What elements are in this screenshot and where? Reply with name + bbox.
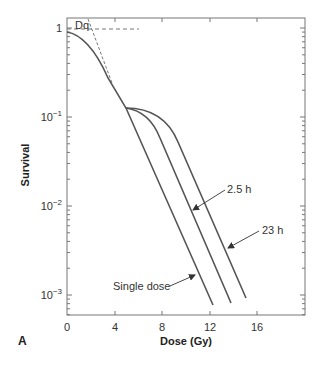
- x-axis-title: Dose (Gy): [160, 335, 212, 347]
- y-tick-base: 10: [41, 200, 53, 212]
- plot-frame: [67, 18, 305, 315]
- y-tick-exp: −1: [53, 109, 63, 118]
- panel-label: A: [18, 334, 27, 348]
- curve-single-dose: [67, 32, 213, 305]
- annotation-2-5h: 2.5 h: [227, 183, 251, 195]
- arrow-single-dose: [170, 275, 195, 286]
- x-tick-8: 8: [159, 321, 165, 333]
- curve-2-5h: [126, 108, 231, 303]
- y-tick-10-1: 10−1: [41, 109, 63, 123]
- curve-23h: [126, 108, 246, 298]
- x-tick-12: 12: [204, 321, 216, 333]
- survival-chart: 0 4 8 12 16 1 10−1 10−2 10−3 Dose (Gy) S…: [0, 0, 323, 367]
- x-tick-16: 16: [251, 321, 263, 333]
- annotation-single-dose: Single dose: [113, 280, 171, 292]
- arrow-23h: [228, 231, 259, 248]
- y-tick-exp: −2: [53, 198, 63, 207]
- x-tick-0: 0: [64, 321, 70, 333]
- x-ticks: [115, 18, 257, 315]
- y-tick-base: 10: [41, 111, 53, 123]
- x-tick-4: 4: [112, 321, 118, 333]
- y-tick-10-2: 10−2: [41, 198, 63, 212]
- dq-extrapolation-dashed: [88, 19, 112, 83]
- y-ticks: [67, 28, 305, 315]
- arrow-2-5h: [193, 190, 225, 210]
- y-tick-10-3: 10−3: [41, 287, 63, 301]
- y-tick-base: 10: [41, 289, 53, 301]
- annotation-23h: 23 h: [262, 224, 283, 236]
- dq-label: Dq: [75, 19, 89, 31]
- y-tick-exp: −3: [53, 287, 63, 296]
- y-axis-title: Survival: [19, 144, 31, 187]
- y-tick-1: 1: [56, 22, 62, 34]
